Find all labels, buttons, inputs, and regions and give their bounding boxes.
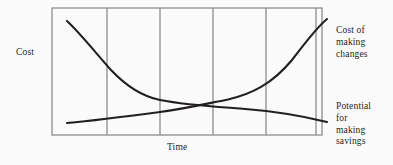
- annotation-cost-of-making-changes: Cost of making changes: [336, 25, 368, 60]
- annotation-line: savings: [336, 136, 371, 148]
- annotation-line: changes: [336, 49, 368, 61]
- annotation-line: making: [336, 125, 371, 137]
- chart-background: [0, 0, 393, 165]
- annotation-potential-for-making-savings: Potential for making savings: [336, 101, 371, 148]
- annotation-line: making: [336, 37, 368, 49]
- x-axis-label: Time: [167, 142, 187, 154]
- annotation-line: Cost of: [336, 25, 368, 37]
- cost-vs-time-chart: [0, 0, 393, 165]
- y-axis-label: Cost: [16, 47, 34, 59]
- annotation-line: Potential: [336, 101, 371, 113]
- chart-figure: Cost Time Cost of making changes Potenti…: [0, 0, 393, 165]
- annotation-line: for: [336, 113, 371, 125]
